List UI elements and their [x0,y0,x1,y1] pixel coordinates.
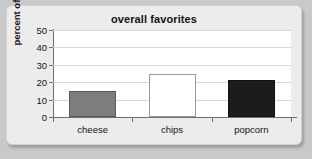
x-axis-line [53,117,297,118]
plot-inner: 01020304050 [53,30,291,118]
x-axis-tick-labels: cheesechipspopcorn [53,124,291,138]
x-axis-tick-label-cheese: cheese [77,124,108,135]
bar-cheese [69,91,116,117]
y-axis-tick-label: 30 [36,59,47,70]
chart-screenshot: overall favorites percent of people 0102… [0,0,312,159]
plot-area: 01020304050 [53,30,291,118]
gridline [53,47,291,48]
gridline [53,30,291,31]
bar-chips [149,74,196,118]
x-axis-tick-label-popcorn: popcorn [234,124,268,135]
y-axis-tick [49,47,53,48]
y-axis-tick [49,82,53,83]
x-axis-tick-label-chips: chips [161,124,183,135]
chart-card: overall favorites percent of people 0102… [6,5,302,145]
y-axis-tick-label: 50 [36,25,47,36]
x-axis-tick [53,118,54,122]
bar-popcorn [228,80,275,117]
gridline [53,65,291,66]
y-axis-line [53,29,54,118]
x-axis-tick [291,118,292,122]
x-axis-tick [212,118,213,122]
y-axis-label: percent of people [11,0,23,52]
y-axis-tick [49,65,53,66]
y-axis-tick-label: 20 [36,77,47,88]
y-axis-tick [49,100,53,101]
y-axis-tick [49,30,53,31]
y-axis-tick-label: 0 [42,112,47,123]
chart-title: overall favorites [7,13,301,25]
y-axis-tick-label: 10 [36,94,47,105]
y-axis-tick-label: 40 [36,42,47,53]
x-axis-tick [132,118,133,122]
